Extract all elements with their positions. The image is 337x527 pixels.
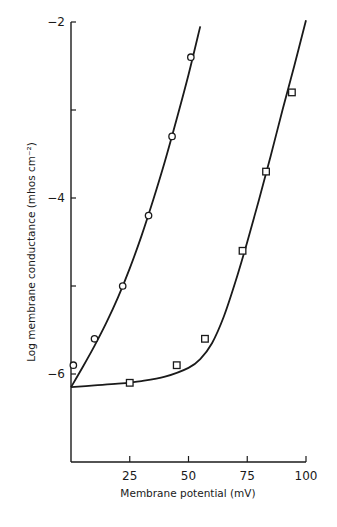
circle-marker (169, 133, 175, 139)
square-marker (173, 362, 180, 369)
square-marker (239, 248, 246, 255)
y-axis-label: Log membrane conductance (mhos cm⁻²) (25, 142, 37, 362)
circle-marker (120, 283, 126, 289)
conductance-chart: −2−4−6255075100 Membrane potential (mV) … (0, 0, 337, 527)
y-tick-label: −6 (47, 367, 65, 381)
square-marker (289, 89, 296, 96)
fit-curve-circles (71, 26, 200, 387)
x-tick-label: 100 (295, 469, 318, 483)
x-tick-label: 75 (240, 469, 255, 483)
x-axis-label: Membrane potential (mV) (120, 487, 255, 499)
square-marker (202, 336, 209, 343)
square-marker (126, 380, 133, 387)
fit-curves (71, 20, 306, 387)
y-tick-label: −4 (47, 191, 65, 205)
x-tick-label: 50 (181, 469, 196, 483)
y-tick-label: −2 (47, 15, 65, 29)
circle-marker (91, 336, 97, 342)
circle-marker (70, 362, 76, 368)
circle-marker (145, 212, 151, 218)
x-tick-label: 25 (122, 469, 137, 483)
data-markers (70, 54, 295, 386)
axes: −2−4−6255075100 (47, 15, 317, 483)
circle-marker (188, 54, 194, 60)
square-marker (263, 168, 270, 175)
